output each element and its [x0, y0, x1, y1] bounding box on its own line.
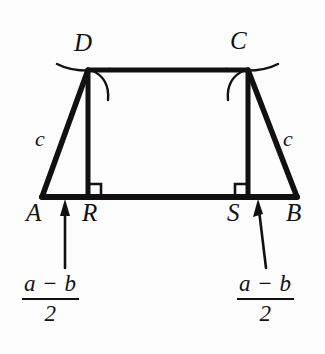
trapezoid-outline: [42, 70, 297, 197]
vertex-label-C: C: [230, 28, 247, 53]
vertex-label-S: S: [227, 200, 240, 225]
arc-C-descending: [228, 70, 245, 100]
fraction-left-numerator: a − b: [22, 272, 79, 296]
leg-AD: [42, 70, 88, 197]
arc-C-horizontal: [226, 64, 278, 71]
side-label-right-leg: c: [283, 128, 293, 150]
arrow-head-left: [60, 199, 70, 216]
fraction-left-bar: [22, 298, 79, 300]
fraction-left-denominator: 2: [45, 301, 57, 326]
fraction-right-bar: [237, 298, 294, 300]
altitudes: [88, 70, 248, 197]
vertex-label-R: R: [82, 200, 97, 225]
vertex-label-A: A: [26, 200, 41, 225]
arc-D-descending: [91, 70, 108, 100]
arrow-head-right: [253, 199, 263, 217]
arc-D-horizontal: [57, 64, 110, 71]
fraction-right-denominator: 2: [260, 301, 272, 326]
vertex-label-B: B: [286, 200, 301, 225]
vertex-label-D: D: [74, 30, 92, 55]
fraction-right: a − b 2: [237, 272, 294, 326]
fraction-left: a − b 2: [22, 272, 79, 326]
geometry-figure: D C A R S B c c a − b 2 a − b 2: [0, 0, 325, 354]
arrow-shaft-right: [259, 210, 266, 268]
side-label-left-leg: c: [35, 128, 45, 150]
fraction-right-numerator: a − b: [237, 272, 294, 296]
